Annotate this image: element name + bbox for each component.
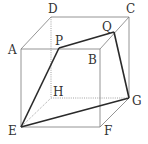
edge-AD: [21, 17, 51, 49]
segment-QG: [114, 32, 129, 98]
label-P: P: [55, 34, 63, 48]
segment-GE: [21, 98, 129, 127]
cube-diagram: D C A B P Q H G E F: [0, 0, 148, 144]
label-H: H: [53, 85, 63, 99]
segment-PQ: [59, 32, 114, 48]
label-Q: Q: [102, 20, 112, 34]
label-B: B: [88, 53, 97, 67]
label-D: D: [48, 2, 58, 16]
label-E: E: [8, 124, 17, 138]
cube-hidden-edges: [21, 17, 129, 127]
label-A: A: [7, 43, 17, 57]
label-C: C: [126, 2, 135, 16]
cube-visible-edges: [21, 17, 129, 127]
label-G: G: [132, 94, 142, 108]
vertex-labels: D C A B P Q H G E F: [7, 2, 142, 138]
label-F: F: [104, 124, 112, 138]
cross-section: [21, 32, 129, 127]
